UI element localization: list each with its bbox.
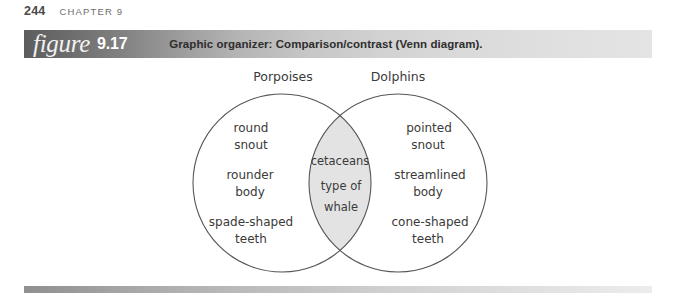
venn-right-item-5: teeth	[412, 232, 444, 246]
venn-right-item-3: body	[413, 185, 443, 199]
bottom-divider-rule	[24, 286, 652, 293]
venn-right-item-0: pointed	[406, 121, 452, 135]
venn-left-item-3: body	[235, 185, 265, 199]
venn-left-label: Porpoises	[253, 69, 313, 84]
venn-left-item-0: round	[234, 121, 269, 135]
figure-title-bar: figure 9.17 Graphic organizer: Compariso…	[24, 30, 652, 58]
venn-left-item-4: spade-shaped	[209, 215, 293, 229]
venn-center-item-2: whale	[324, 200, 358, 214]
venn-left-item-1: snout	[234, 138, 268, 152]
venn-left-item-2: rounder	[226, 168, 273, 182]
venn-center-item-0: cetaceans	[311, 154, 370, 168]
venn-right-item-2: streamlined	[394, 168, 465, 182]
venn-right-item-4: cone-shaped	[391, 215, 468, 229]
figure-word-label: figure	[33, 31, 90, 56]
chapter-label: CHAPTER 9	[59, 6, 123, 17]
venn-right-label: Dolphins	[371, 69, 426, 84]
venn-diagram-svg: Porpoises Dolphins round snout rounder b…	[0, 62, 676, 280]
venn-diagram: Porpoises Dolphins round snout rounder b…	[0, 62, 676, 280]
venn-right-item-1: snout	[411, 138, 445, 152]
page-number: 244	[24, 4, 45, 18]
figure-number-label: 9.17	[97, 35, 127, 53]
running-head: 244 CHAPTER 9	[24, 4, 123, 18]
figure-caption: Graphic organizer: Comparison/contrast (…	[169, 38, 482, 50]
venn-left-item-5: teeth	[235, 232, 267, 246]
venn-center-item-1: type of	[321, 179, 362, 193]
